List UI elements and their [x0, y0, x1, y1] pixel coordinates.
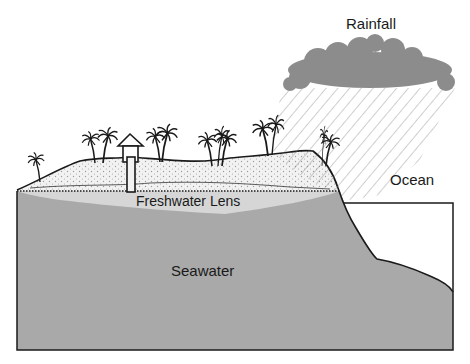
seawater-body	[17, 191, 453, 350]
rainfall-label: Rainfall	[346, 16, 396, 31]
rain-cloud-icon	[283, 34, 455, 91]
seawater-label: Seawater	[171, 263, 234, 278]
freshwater-lens-label: Freshwater Lens	[136, 194, 240, 208]
ocean-label: Ocean	[390, 172, 434, 187]
